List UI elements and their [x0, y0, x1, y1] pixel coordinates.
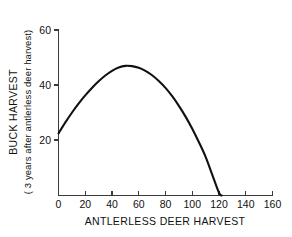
x-tick-label-120: 120: [210, 198, 228, 210]
x-tick-label-0: 0: [56, 198, 62, 210]
data-series-line: [59, 66, 222, 196]
x-tick-label-60: 60: [133, 198, 145, 210]
chart-figure: 60 40 20 0 20 40 60 80 100 120 140 160 A…: [0, 0, 292, 237]
y-axis-title: BUCK HARVEST: [7, 69, 19, 155]
x-tick-label-80: 80: [160, 198, 172, 210]
x-tick-label-160: 160: [264, 198, 282, 210]
chart-canvas: 60 40 20 0 20 40 60 80 100 120 140 160 A…: [0, 0, 292, 237]
x-tick-label-40: 40: [106, 198, 118, 210]
x-axis-title: ANTLERLESS DEER HARVEST: [85, 215, 246, 227]
y-axis-subtitle: ( 3 years after antlerless deer harvest): [22, 30, 33, 195]
x-tick-label-20: 20: [79, 198, 91, 210]
y-tick-label-60: 60: [39, 24, 51, 36]
y-tick-label-20: 20: [39, 134, 51, 146]
x-tick-label-140: 140: [237, 198, 255, 210]
y-tick-label-40: 40: [39, 79, 51, 91]
x-tick-label-100: 100: [183, 198, 201, 210]
